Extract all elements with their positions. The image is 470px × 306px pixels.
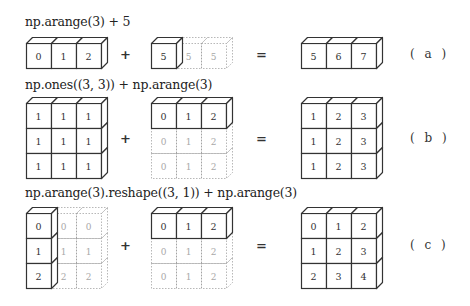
solid-cell: 1 [52,154,77,179]
solid-cell: 5 [152,38,183,69]
cell-value: 1 [335,221,341,232]
cell-value: 2 [210,221,216,232]
solid-cell: 3 [352,98,383,129]
cell-value: 0 [310,221,316,232]
ghost-cell-value: 1 [186,272,192,282]
cell-value: 3 [360,136,366,147]
row-b-right-array: 012012012 [152,98,233,179]
ghost-cell: 0 [77,208,108,239]
solid-cell: 1 [27,154,52,179]
ghost-cell: 0 [152,264,177,289]
cell-value: 1 [60,111,66,122]
cell-value: 3 [360,111,366,122]
cell-value: 4 [360,271,366,282]
row-a-plus-operator: + [120,47,131,62]
ghost-cell: 0 [152,239,177,264]
row-c-expression: np.arange(3).reshape((3, 1)) + np.arange… [25,185,297,200]
ghost-cell: 0 [152,154,177,179]
cell-value: 2 [335,111,341,122]
cell-value: 2 [335,136,341,147]
row-a-equals-operator: = [256,47,267,62]
ghost-cell-value: 5 [211,52,217,62]
cell-value: 1 [60,161,66,172]
ghost-cell: 1 [177,239,202,264]
solid-cell: 1 [302,239,327,264]
row-b-left-array: 111111111 [27,98,108,179]
ghost-cell-value: 2 [211,272,217,282]
ghost-cell-value: 0 [161,247,167,257]
ghost-cell: 5 [202,38,233,69]
ghost-cell-value: 2 [211,137,217,147]
ghost-cell-value: 0 [161,137,167,147]
cell-value: 1 [310,111,316,122]
ghost-cell-value: 2 [211,162,217,172]
cell-value: 1 [310,136,316,147]
cell-value: 3 [360,161,366,172]
row-c-plus-operator: + [120,238,131,253]
ghost-cell-value: 2 [86,272,92,282]
cell-value: 1 [85,111,91,122]
cell-value: 0 [160,221,166,232]
solid-cell: 1 [302,154,327,179]
solid-cell: 2 [202,208,233,239]
cell-value: 7 [360,51,366,62]
solid-cell: 2 [327,154,352,179]
cell-value: 1 [85,161,91,172]
solid-cell: 2 [327,129,352,154]
cell-value: 1 [185,111,191,122]
ghost-cell-value: 1 [86,247,92,257]
solid-cell: 3 [327,264,352,289]
cell-value: 1 [60,136,66,147]
cell-value: 3 [360,246,366,257]
cell-value: 2 [310,271,316,282]
solid-cell: 2 [302,264,327,289]
solid-cell: 2 [327,239,352,264]
solid-cell: 2 [77,38,108,69]
ghost-cell-value: 1 [186,137,192,147]
row-b-label: ( b ) [410,131,450,145]
cell-value: 1 [85,136,91,147]
cube-diagram: 0125555671111111110120120121231231230011… [0,0,470,306]
row-b-result-array: 123123123 [302,98,383,179]
cell-value: 2 [360,221,366,232]
ghost-cell-value: 5 [186,52,192,62]
ghost-cell-value: 1 [186,162,192,172]
ghost-cell: 1 [177,154,202,179]
ghost-cell-value: 0 [161,162,167,172]
solid-cell: 2 [352,208,383,239]
cell-value: 2 [335,161,341,172]
solid-cell: 1 [77,98,108,129]
cell-value: 1 [35,111,41,122]
ghost-cell-value: 0 [86,222,92,232]
solid-cell: 2 [202,98,233,129]
row-a-left-array: 012 [27,38,108,69]
ghost-cell-value: 0 [161,272,167,282]
cell-value: 2 [335,246,341,257]
cell-value: 2 [85,51,91,62]
solid-cell: 1 [27,129,52,154]
ghost-cell-value: 1 [61,247,67,257]
solid-cell: 1 [52,129,77,154]
solid-cell: 0 [27,208,58,239]
row-c-result-array: 012123234 [302,208,383,289]
cell-value: 5 [310,51,316,62]
cell-value: 5 [160,51,166,62]
row-c-right-array: 012012012 [152,208,233,289]
row-b-equals-operator: = [256,131,267,146]
row-a-right-array: 555 [152,38,233,69]
cell-value: 1 [185,221,191,232]
row-b-expression: np.ones((3, 3)) + np.arange(3) [25,77,212,92]
solid-cell: 7 [352,38,383,69]
cell-value: 0 [160,111,166,122]
row-c-left-array: 001122012 [27,208,108,289]
cell-value: 1 [35,161,41,172]
broadcasting-figure: 0125555671111111110120120121231231230011… [0,0,470,306]
cell-value: 3 [335,271,341,282]
row-c-label: ( c ) [410,238,449,252]
cell-value: 1 [35,136,41,147]
ghost-cell: 0 [152,129,177,154]
cell-value: 1 [310,161,316,172]
ghost-cell-value: 2 [61,272,67,282]
row-a-result-array: 567 [302,38,383,69]
cell-value: 2 [210,111,216,122]
